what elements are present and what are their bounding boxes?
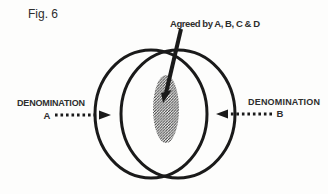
- denomination-a-arrowhead-icon: [99, 111, 111, 120]
- venn-diagram: Fig. 6 Agreed by A, B, C & D DENOMINATIO…: [0, 0, 328, 194]
- agreed-annotation-label: Agreed by A, B, C & D: [170, 18, 260, 29]
- denomination-b-label: DENOMINATION: [248, 97, 320, 107]
- denomination-b-letter: B: [277, 108, 284, 119]
- figure-label: Fig. 6: [28, 7, 58, 21]
- denomination-a-letter: A: [44, 110, 51, 121]
- figure-canvas: Fig. 6 Agreed by A, B, C & D DENOMINATIO…: [0, 0, 328, 194]
- denomination-b-arrowhead-icon: [216, 110, 228, 119]
- denomination-a-label: DENOMINATION: [17, 98, 85, 108]
- circle-denomination-a: [95, 50, 207, 178]
